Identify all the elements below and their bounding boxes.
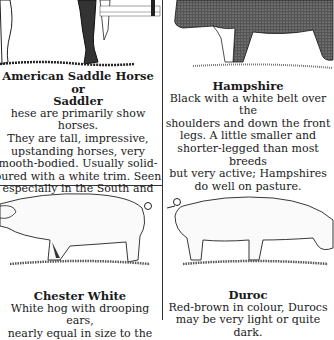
chester-white-desc-2: nearly equal in size to the: [0, 328, 162, 340]
saddle-horse-caption: American Saddle Horse or Saddler hese ar…: [0, 70, 162, 209]
duroc-desc-2: may be very light or quite dark.: [163, 314, 333, 339]
duroc-title: Duroc: [163, 289, 333, 302]
duroc-illustration: [163, 190, 334, 270]
saddle-horse-illustration: [0, 0, 162, 70]
saddle-horse-desc-4: mooth-bodied. Usually solid-: [0, 158, 162, 171]
duroc-caption: Duroc Red-brown in colour, Durocs may be…: [163, 289, 333, 339]
chester-white-title: Chester White: [0, 290, 162, 303]
chester-white-illustration: [0, 190, 162, 270]
hampshire-caption: Hampshire Black with a white belt over t…: [163, 80, 333, 193]
hampshire-desc-4: shorter-legged than most breeds: [163, 143, 333, 168]
saddle-horse-desc-2: They are tall, impressive,: [0, 133, 162, 146]
hampshire-desc-5: but very active; Hampshires: [163, 168, 333, 181]
chester-white-caption: Chester White White hog with drooping ea…: [0, 290, 162, 340]
chester-white-desc-1: White hog with drooping ears,: [0, 303, 162, 328]
saddle-horse-title-line1: American Saddle Horse or: [0, 70, 162, 95]
hampshire-title: Hampshire: [163, 80, 333, 93]
hampshire-illustration: [163, 0, 334, 72]
hampshire-desc-1: Black with a white belt over the: [163, 93, 333, 118]
saddle-horse-title-line2: Saddler: [0, 95, 162, 108]
saddle-horse-desc-1: hese are primarily show horses.: [0, 108, 162, 133]
